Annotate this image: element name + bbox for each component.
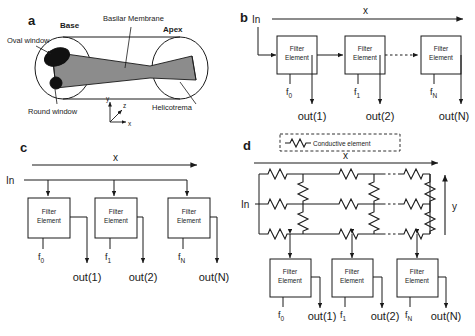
panel-d: d Conductive element x y In xyxy=(241,134,461,322)
axis-z-arrow xyxy=(110,110,122,122)
panel-b-input-label: In xyxy=(252,14,260,25)
panel-b-filter-3-line1: Filter xyxy=(434,45,449,52)
panel-c-filter-1-line2: Element xyxy=(37,217,61,224)
basilar-membrane-surface xyxy=(52,52,196,88)
panel-b-out1-label: out(1) xyxy=(298,110,327,122)
panel-d-letter: d xyxy=(243,138,251,153)
panel-c-out1-label: out(1) xyxy=(73,271,102,283)
panel-d-x-label: x xyxy=(343,150,348,161)
panel-c-filter-3-line2: Element xyxy=(177,217,201,224)
panel-c: c x In Filter Element Filter Element Fil… xyxy=(6,140,229,283)
axis-label-x: x xyxy=(128,120,132,127)
panel-b-filter-2-line2: Element xyxy=(353,54,377,61)
figure-root: a Oval window Base Basilar Membrane Apex… xyxy=(0,0,475,336)
panel-c-filter-3-line1: Filter xyxy=(182,208,197,215)
panel-d-out1-wire xyxy=(311,277,320,308)
panel-d-y-label: y xyxy=(452,201,457,212)
panel-c-input-label: In xyxy=(6,175,14,186)
panel-c-out2-wire xyxy=(137,217,143,263)
panel-b-letter: b xyxy=(240,10,248,25)
panel-d-fN-label: fN xyxy=(405,310,413,322)
panel-c-x-label: x xyxy=(113,152,118,163)
panel-c-letter: c xyxy=(20,140,27,155)
resistor-r3c2-icon xyxy=(330,229,367,239)
panel-d-input-label: In xyxy=(241,199,249,210)
panel-a: a Oval window Base Basilar Membrane Apex… xyxy=(7,13,208,127)
resistor-r2c2-icon xyxy=(330,199,367,209)
label-helicotrema: Helicotrema xyxy=(152,103,193,112)
panel-c-out1-wire xyxy=(70,217,87,263)
round-window-shape xyxy=(50,77,62,89)
panel-b: b In x Filter Element Filter Element Fil… xyxy=(240,5,469,122)
panel-d-filter-1-line1: Filter xyxy=(283,268,298,275)
panel-c-outN-label: out(N) xyxy=(199,271,230,283)
label-apex: Apex xyxy=(163,25,183,34)
label-basilar-membrane: Basilar Membrane xyxy=(103,14,164,23)
label-round-window: Round window xyxy=(28,107,78,116)
label-base: Base xyxy=(60,21,80,30)
panel-b-x-label: x xyxy=(363,5,368,16)
axis-label-z: z xyxy=(123,102,126,109)
panel-d-out2-wire xyxy=(373,277,382,308)
resistor-r1c3-icon xyxy=(400,169,430,179)
panel-c-fN-label: fN xyxy=(178,252,186,264)
panel-c-outN-wire xyxy=(210,217,217,263)
resistor-v2-top-icon xyxy=(369,174,379,204)
resistor-v1-top-icon xyxy=(298,174,308,204)
panel-d-f1-label: f1 xyxy=(340,310,347,322)
panel-d-out2-label: out(2) xyxy=(371,310,400,322)
panel-c-f0-label: f0 xyxy=(38,252,45,264)
panel-b-filter-1-line1: Filter xyxy=(290,45,305,52)
panel-c-filter-2-line2: Element xyxy=(104,217,128,224)
panel-b-filter-2-line1: Filter xyxy=(358,45,373,52)
panel-b-f1-label: f1 xyxy=(354,87,361,99)
panel-b-out2-label: out(2) xyxy=(366,110,395,122)
panel-d-filter-1-line2: Element xyxy=(278,277,302,284)
panel-b-filter-3-line2: Element xyxy=(429,54,453,61)
panel-d-filter-3-line2: Element xyxy=(405,277,429,284)
resistor-r2c3-icon xyxy=(400,199,430,209)
helicotrema-leader xyxy=(180,82,196,104)
panel-c-filter-1-line1: Filter xyxy=(42,208,57,215)
panel-c-out2-label: out(2) xyxy=(129,271,158,283)
resistor-v1-bottom-icon xyxy=(298,204,308,234)
resistor-r1c2-icon xyxy=(330,169,367,179)
panel-d-filter-2-line2: Element xyxy=(340,277,364,284)
panel-b-fN-label: fN xyxy=(430,87,438,99)
resistor-v2-bottom-icon xyxy=(369,204,379,234)
panel-c-filter-2-line1: Filter xyxy=(109,208,124,215)
panel-a-letter: a xyxy=(28,13,36,28)
panel-b-outN-label: out(N) xyxy=(439,110,470,122)
panel-d-out1-label: out(1) xyxy=(308,310,337,322)
panel-d-f0-label: f0 xyxy=(278,310,285,322)
panel-d-filter-2-line1: Filter xyxy=(345,268,360,275)
resistor-r3c3-icon xyxy=(400,229,430,239)
label-oval-window: Oval window xyxy=(7,36,50,45)
basilar-membrane-leader xyxy=(125,27,131,68)
round-window-leader xyxy=(55,89,57,104)
panel-d-outN-wire xyxy=(438,277,446,308)
axis-triad: y z x xyxy=(106,95,132,127)
panel-d-legend-label: Conductive element xyxy=(313,140,371,147)
figure-canvas: a Oval window Base Basilar Membrane Apex… xyxy=(0,0,475,336)
panel-b-filter-1-line2: Element xyxy=(285,54,309,61)
resistor-r1c1-icon xyxy=(259,169,296,179)
resistor-r2c1-icon xyxy=(259,199,296,209)
panel-b-input-wire xyxy=(258,27,276,55)
panel-c-f1-label: f1 xyxy=(105,252,112,264)
panel-d-filter-3-line1: Filter xyxy=(410,268,425,275)
panel-d-outN-label: out(N) xyxy=(431,310,462,322)
panel-b-f0-label: f0 xyxy=(286,87,293,99)
